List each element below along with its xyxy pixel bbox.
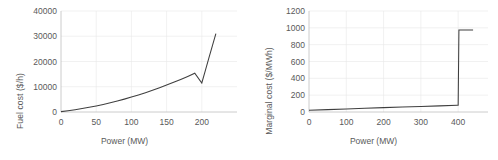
x-tick-label: 150 bbox=[160, 118, 174, 127]
x-tick-label: 0 bbox=[307, 118, 312, 127]
x-tick-label: 0 bbox=[59, 118, 64, 127]
x-tick-label: 100 bbox=[339, 118, 353, 127]
chart-panel-fuel-cost: Fuel cost ($/h) 010000200003000040000 05… bbox=[0, 0, 249, 160]
data-series-line bbox=[309, 30, 473, 110]
y-tick-label: 200 bbox=[249, 91, 305, 100]
x-tick-label: 200 bbox=[376, 118, 390, 127]
plot-area-marginal-cost bbox=[309, 11, 488, 112]
chart-svg bbox=[309, 11, 488, 112]
y-tick-label: 0 bbox=[0, 108, 57, 117]
data-series-line bbox=[61, 34, 216, 112]
chart-panel-marginal-cost: Marginal cost ($/MWh) 020040060080010001… bbox=[249, 0, 498, 160]
y-tick-label: 1200 bbox=[249, 7, 305, 16]
y-tick-label: 600 bbox=[249, 57, 305, 66]
chart-svg bbox=[61, 11, 237, 112]
figure-two-panel: Fuel cost ($/h) 010000200003000040000 05… bbox=[0, 0, 498, 160]
x-tick-label: 100 bbox=[124, 118, 138, 127]
y-tick-label: 0 bbox=[249, 108, 305, 117]
x-tick-label: 400 bbox=[451, 118, 465, 127]
y-tick-label: 30000 bbox=[0, 32, 57, 41]
x-axis-title-fuel-cost: Power (MW) bbox=[0, 136, 249, 146]
y-tick-label: 800 bbox=[249, 40, 305, 49]
y-tick-label: 1000 bbox=[249, 24, 305, 33]
y-tick-label: 20000 bbox=[0, 57, 57, 66]
x-axis-title-marginal-cost: Power (MW) bbox=[249, 136, 498, 146]
x-tick-label: 300 bbox=[414, 118, 428, 127]
y-tick-label: 10000 bbox=[0, 83, 57, 92]
y-tick-label: 400 bbox=[249, 74, 305, 83]
x-tick-label: 50 bbox=[91, 118, 100, 127]
y-tick-label: 40000 bbox=[0, 7, 57, 16]
x-tick-label: 200 bbox=[195, 118, 209, 127]
plot-area-fuel-cost bbox=[61, 11, 237, 112]
